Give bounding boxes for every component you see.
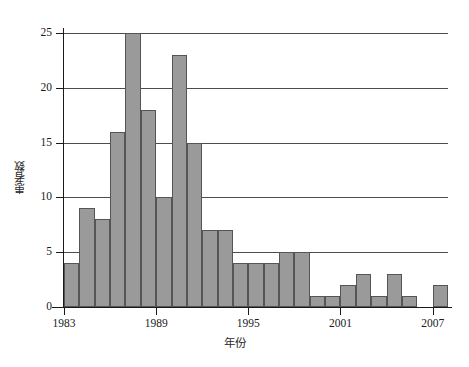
histogram-bar	[325, 296, 340, 307]
histogram-bar	[110, 132, 125, 307]
plot-area	[64, 33, 448, 307]
x-tick-mark	[340, 308, 341, 315]
histogram-bar	[218, 230, 233, 307]
y-tick-mark	[56, 88, 64, 89]
y-tick-mark	[56, 143, 64, 144]
y-tick-label-wrap: 5	[0, 246, 52, 258]
x-tick-mark	[64, 308, 65, 315]
y-tick-label-wrap: 25	[0, 27, 52, 39]
histogram-bar	[202, 230, 217, 307]
histogram-bar	[64, 263, 79, 307]
x-axis-label: 年份	[0, 337, 469, 350]
y-tick-mark	[56, 307, 64, 308]
y-tick-label: 15	[28, 137, 52, 149]
histogram-bar	[402, 296, 417, 307]
y-tick-mark	[56, 33, 64, 34]
histogram-bar	[279, 252, 294, 307]
histogram-bar	[264, 263, 279, 307]
x-tick-label: 1989	[126, 317, 186, 330]
y-tick-mark	[56, 197, 64, 198]
histogram-bar	[125, 33, 140, 307]
histogram-chart: 患者数 0510152025 19831989199520012007 年份	[0, 0, 469, 367]
histogram-bar	[248, 263, 263, 307]
histogram-bar	[156, 197, 171, 307]
y-tick-label: 25	[28, 27, 52, 39]
x-tick-label: 2007	[403, 317, 463, 330]
y-tick-label: 0	[28, 301, 52, 313]
x-tick-mark	[433, 308, 434, 315]
y-tick-label: 20	[28, 82, 52, 94]
histogram-bar	[310, 296, 325, 307]
x-tick-label: 1995	[218, 317, 278, 330]
x-tick-label: 1983	[34, 317, 94, 330]
histogram-bar	[172, 55, 187, 307]
histogram-bar	[187, 143, 202, 307]
histogram-bar	[340, 285, 355, 307]
y-tick-label-wrap: 20	[0, 82, 52, 94]
histogram-bar	[433, 285, 448, 307]
histogram-bar	[387, 274, 402, 307]
histogram-bar	[95, 219, 110, 307]
histogram-bar	[294, 252, 309, 307]
histogram-bar	[371, 296, 386, 307]
x-tick-mark	[156, 308, 157, 315]
x-tick-mark	[248, 308, 249, 315]
y-tick-label-wrap: 10	[0, 191, 52, 203]
x-axis-line	[52, 307, 452, 308]
y-tick-label-wrap: 15	[0, 137, 52, 149]
x-tick-label: 2001	[310, 317, 370, 330]
histogram-bar	[233, 263, 248, 307]
histogram-bar	[356, 274, 371, 307]
histogram-bar	[79, 208, 94, 307]
histogram-bar	[141, 110, 156, 307]
y-tick-label: 10	[28, 191, 52, 203]
y-tick-label: 5	[28, 246, 52, 258]
y-tick-label-wrap: 0	[0, 301, 52, 313]
y-tick-mark	[56, 252, 64, 253]
